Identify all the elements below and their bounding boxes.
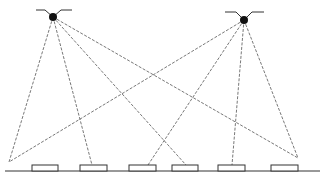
ray-line xyxy=(53,17,186,165)
ray-line xyxy=(9,20,244,162)
receiver-pad xyxy=(218,165,245,171)
ray-line xyxy=(53,17,298,158)
ray-line xyxy=(148,20,244,165)
receiver-pads xyxy=(32,165,298,171)
ray-line xyxy=(9,17,53,162)
source-dot-icon xyxy=(240,16,248,24)
receiver-pad xyxy=(271,165,298,171)
ray-lines xyxy=(9,17,298,165)
left-source xyxy=(36,10,72,21)
receiver-pad xyxy=(129,165,156,171)
source-dot-icon xyxy=(49,13,57,21)
right-source xyxy=(225,12,264,24)
receiver-pad xyxy=(80,165,107,171)
receiver-pad xyxy=(32,165,58,171)
ray-line xyxy=(244,20,298,158)
ray-line xyxy=(232,20,244,165)
receiver-pad xyxy=(172,165,198,171)
sources xyxy=(36,10,264,24)
ray-diagram xyxy=(0,0,328,183)
